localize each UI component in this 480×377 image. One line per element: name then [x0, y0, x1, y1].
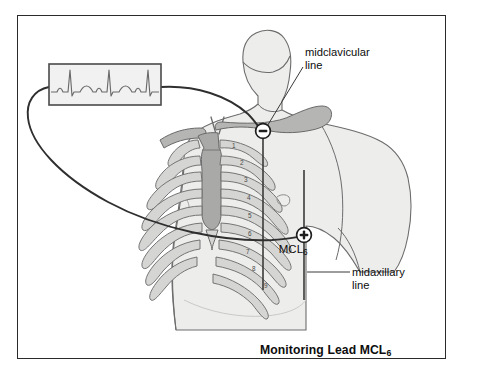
label-midaxillary-line: midaxillary line [352, 266, 405, 291]
figure-caption-subscript: 6 [386, 348, 391, 358]
rib-number-1: 1 [232, 142, 236, 149]
figure-caption-text: Monitoring Lead MCL [260, 343, 386, 357]
rib-number-5: 5 [248, 212, 252, 219]
negative-electrode[interactable] [256, 124, 271, 139]
figure-container: 1 2 3 4 5 6 7 8 9 [0, 0, 480, 377]
mcl-lead-subscript: 6 [303, 248, 308, 257]
figure-caption: Monitoring Lead MCL6 [246, 330, 391, 373]
rib-number-4: 4 [247, 194, 251, 201]
label-midclavicular-line: midclavicular line [305, 46, 370, 71]
mcl-lead-text: MCL [279, 243, 303, 255]
anatomy-illustration: 1 2 3 4 5 6 7 8 9 [0, 0, 480, 377]
rib-number-3: 3 [244, 176, 248, 183]
ecg-waveform-box[interactable] [49, 64, 161, 105]
minus-icon [259, 130, 268, 132]
label-mcl-lead: MCL6 [266, 230, 308, 270]
rib-number-7: 7 [246, 248, 250, 255]
rib-number-9: 9 [264, 282, 268, 289]
rib-number-2: 2 [240, 159, 244, 166]
rib-number-6: 6 [248, 230, 252, 237]
rib-number-8: 8 [252, 265, 256, 272]
